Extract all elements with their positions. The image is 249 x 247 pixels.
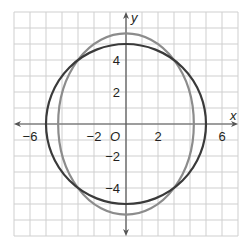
coordinate-plane: −6−22642−2−4 x y O (0, 0, 249, 247)
x-tick-label: −6 (23, 129, 38, 144)
x-tick-label: 6 (218, 129, 225, 144)
y-tick-label: 4 (113, 53, 120, 68)
y-tick-label: −4 (105, 181, 120, 196)
x-tick-label: −2 (87, 129, 102, 144)
y-tick-label: 2 (113, 85, 120, 100)
origin-label: O (110, 129, 120, 144)
axes (14, 12, 238, 236)
y-tick-label: −2 (105, 149, 120, 164)
x-axis-label: x (229, 108, 237, 123)
x-tick-label: 2 (154, 129, 161, 144)
